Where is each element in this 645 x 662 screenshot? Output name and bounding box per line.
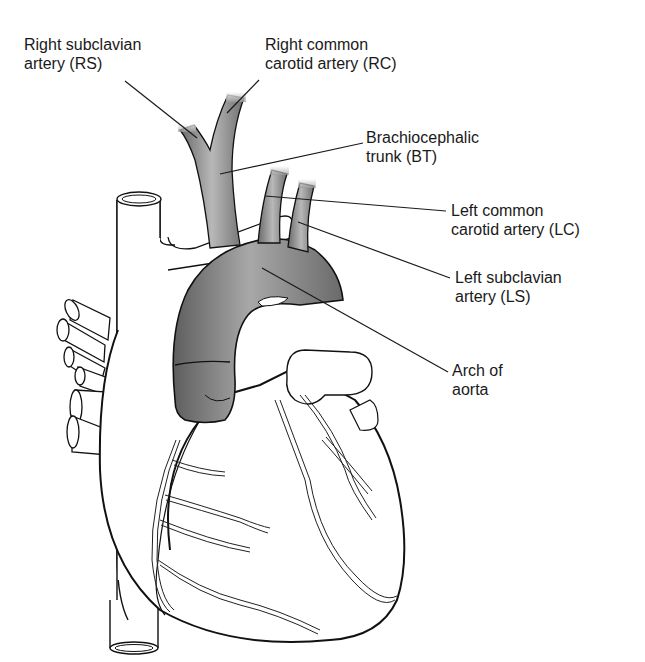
- label-rc-line2: carotid artery (RC): [265, 54, 397, 73]
- label-bt-line2: trunk (BT): [366, 147, 479, 166]
- leader-line-lc: [265, 196, 446, 211]
- label-rs-line1: Right subclavian: [24, 35, 141, 54]
- label-ls-line2: artery (LS): [455, 287, 562, 306]
- inferior-vena-cava: [110, 600, 158, 654]
- label-left-subclavian-artery: Left subclavian artery (LS): [455, 268, 562, 306]
- label-right-common-carotid-artery: Right common carotid artery (RC): [265, 35, 397, 73]
- label-rc-line1: Right common: [265, 35, 397, 54]
- label-lc-line1: Left common: [451, 201, 580, 220]
- heart-diagram: Right subclavian artery (RS) Right commo…: [0, 0, 645, 662]
- left-common-carotid: [258, 170, 287, 243]
- label-lc-line2: carotid artery (LC): [451, 220, 580, 239]
- label-rs-line2: artery (RS): [24, 54, 141, 73]
- label-aa-line2: aorta: [452, 380, 503, 399]
- label-arch-of-aorta: Arch of aorta: [452, 361, 503, 399]
- label-aa-line1: Arch of: [452, 361, 503, 380]
- brachiocephalic-trunk: [180, 95, 244, 248]
- leader-lines: [125, 80, 450, 372]
- left-subclavian: [288, 183, 314, 252]
- label-left-common-carotid-artery: Left common carotid artery (LC): [451, 201, 580, 239]
- leader-line-bt: [220, 143, 363, 174]
- heart-illustration: [0, 0, 645, 662]
- label-ls-line1: Left subclavian: [455, 268, 562, 287]
- label-brachiocephalic-trunk: Brachiocephalic trunk (BT): [366, 128, 479, 166]
- label-bt-line1: Brachiocephalic: [366, 128, 479, 147]
- leader-line-rs: [125, 81, 197, 138]
- label-right-subclavian-artery: Right subclavian artery (RS): [24, 35, 141, 73]
